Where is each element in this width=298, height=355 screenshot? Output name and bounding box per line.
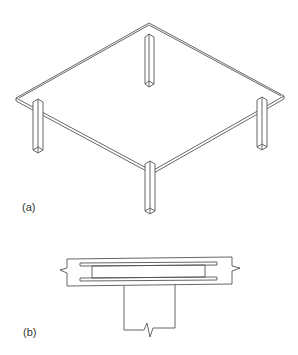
column-left	[33, 99, 43, 153]
section-slab	[60, 257, 240, 286]
column-front	[145, 161, 155, 214]
panel-label-b: (b)	[23, 326, 36, 338]
section-column	[124, 284, 175, 337]
shearhead-i-beam	[80, 262, 217, 281]
column-right	[257, 97, 267, 150]
column-back	[145, 34, 154, 87]
figure-canvas	[0, 0, 298, 355]
panel-label-a: (a)	[22, 201, 35, 213]
